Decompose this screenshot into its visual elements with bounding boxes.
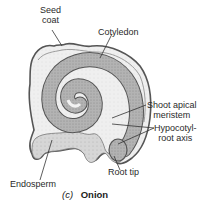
label-cotyledon: Cotyledon [98, 27, 139, 37]
label-seed-coat-line1: Seed [40, 5, 61, 15]
label-seed-coat-line2: coat [40, 15, 61, 25]
label-root-tip: Root tip [108, 167, 139, 177]
label-shoot-apical-meristem: Shoot apical meristem [147, 100, 197, 120]
label-hypocotyl-line1: Hypocotyl- [154, 123, 197, 133]
label-hypocotyl-line2: root axis [154, 133, 197, 143]
onion-seed-diagram: Seed coat Cotyledon Shoot apical meriste… [0, 0, 210, 223]
figure-caption: (c) Onion [62, 189, 108, 200]
label-seed-coat: Seed coat [40, 5, 61, 25]
label-endosperm: Endosperm [10, 179, 56, 189]
label-hypocotyl-root-axis: Hypocotyl- root axis [154, 123, 197, 143]
caption-part-label: (c) [62, 189, 73, 200]
label-shoot-apical-line2: meristem [147, 110, 197, 120]
caption-title: Onion [81, 189, 108, 200]
root-tip [109, 139, 127, 161]
label-shoot-apical-line1: Shoot apical [147, 100, 197, 110]
